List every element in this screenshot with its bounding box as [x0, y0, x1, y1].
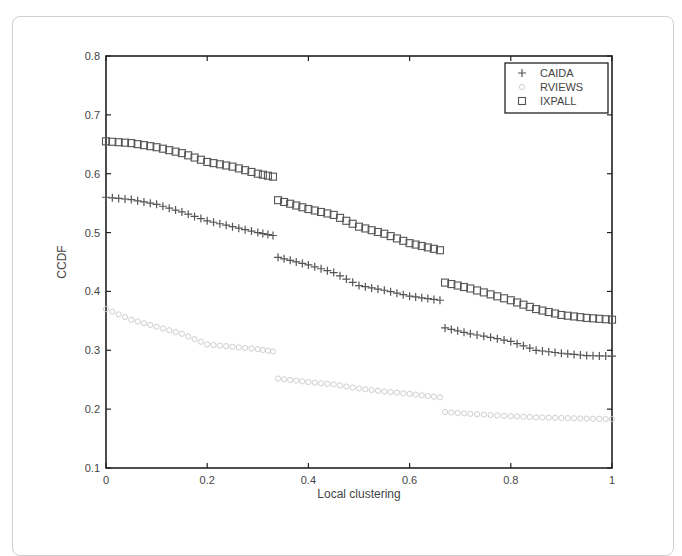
square-marker [480, 289, 487, 296]
y-tick-label: 0.1 [85, 462, 100, 474]
circle-marker [442, 409, 447, 414]
circle-marker [260, 347, 265, 352]
circle-marker [521, 414, 526, 419]
circle-marker [527, 414, 532, 419]
circle-marker [205, 342, 210, 347]
legend-label: RVIEWS [540, 81, 583, 93]
plus-marker [493, 335, 501, 343]
y-tick-label: 0.7 [85, 109, 100, 121]
circle-marker [437, 395, 442, 400]
plus-marker [216, 220, 224, 228]
data-series [102, 138, 616, 422]
circle-marker [211, 342, 216, 347]
x-tick-label: 0.2 [200, 474, 215, 486]
circle-marker [300, 379, 305, 384]
plus-marker [165, 204, 173, 212]
y-tick-label: 0.2 [85, 403, 100, 415]
circle-marker [571, 416, 576, 421]
plus-marker [146, 199, 154, 207]
plus-marker [447, 325, 455, 333]
circle-marker [270, 349, 275, 354]
plus-marker [418, 294, 426, 302]
plus-marker [210, 218, 218, 226]
circle-marker [369, 387, 374, 392]
plus-marker [368, 284, 376, 292]
circle-marker [590, 416, 595, 421]
y-tick-label: 0.3 [85, 344, 100, 356]
circle-marker [552, 415, 557, 420]
plus-marker [551, 348, 559, 356]
circle-marker [192, 337, 197, 342]
plus-marker [441, 324, 449, 332]
circle-marker [481, 412, 486, 417]
x-tick-label: 0.8 [503, 474, 518, 486]
plus-marker [406, 292, 414, 300]
circle-marker [565, 416, 570, 421]
square-marker [474, 287, 481, 294]
plus-marker [259, 230, 267, 238]
circle-marker [116, 312, 121, 317]
circle-marker [394, 390, 399, 395]
plus-marker [387, 288, 395, 296]
plot-area [106, 56, 612, 468]
circle-marker [243, 345, 248, 350]
circle-marker [135, 319, 140, 324]
circle-marker [468, 411, 473, 416]
plus-marker [480, 332, 488, 340]
circle-marker [375, 388, 380, 393]
circle-marker [337, 383, 342, 388]
circle-marker [534, 415, 539, 420]
plus-marker [254, 229, 262, 237]
plus-marker [311, 263, 319, 271]
y-axis-label: CCDF [55, 245, 69, 278]
circle-marker [255, 347, 260, 352]
circle-marker [584, 416, 589, 421]
circle-marker [350, 385, 355, 390]
circle-marker [495, 413, 500, 418]
plus-marker [412, 293, 420, 301]
circle-marker [363, 387, 368, 392]
plus-marker [454, 327, 462, 335]
circle-marker [325, 381, 330, 386]
circle-marker [508, 414, 513, 419]
plus-marker [172, 206, 180, 214]
circle-marker [449, 410, 454, 415]
circle-marker [122, 314, 127, 319]
plus-marker [466, 330, 474, 338]
circle-marker [294, 378, 299, 383]
plus-marker [274, 253, 282, 261]
circle-marker [461, 411, 466, 416]
plus-marker [500, 336, 508, 344]
circle-marker [578, 416, 583, 421]
circle-marker [154, 324, 159, 329]
plus-marker [140, 198, 148, 206]
circle-marker [407, 391, 412, 396]
y-tick-label: 0.5 [85, 227, 100, 239]
x-tick-label: 0 [103, 474, 109, 486]
circle-marker [597, 416, 602, 421]
series-rviews [103, 306, 614, 421]
plot-border [106, 56, 612, 468]
circle-marker [167, 328, 172, 333]
y-tick-label: 0.6 [85, 168, 100, 180]
plus-marker [241, 226, 249, 234]
circle-marker [217, 343, 222, 348]
circle-marker [173, 329, 178, 334]
legend-label: CAIDA [540, 67, 574, 79]
plus-marker [159, 202, 167, 210]
plus-marker [424, 295, 432, 303]
plus-marker [393, 289, 401, 297]
x-tick-label: 1 [609, 474, 615, 486]
x-axis-label: Local clustering [317, 487, 400, 501]
plus-marker [473, 331, 481, 339]
circle-marker [282, 377, 287, 382]
circle-marker [110, 309, 115, 314]
x-tick-label: 0.6 [402, 474, 417, 486]
plus-marker [323, 267, 331, 275]
plus-marker [222, 221, 230, 229]
plus-marker [436, 296, 444, 304]
y-tick-label: 0.4 [85, 285, 100, 297]
circle-marker [249, 346, 254, 351]
plus-marker [235, 224, 243, 232]
